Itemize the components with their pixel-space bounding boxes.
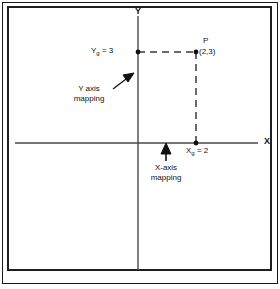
coordinate-plot	[0, 0, 280, 289]
x-mapping-value-rest: = 2	[195, 146, 209, 155]
x-axis-mapping-arrow	[161, 143, 171, 161]
y-axis-label: Y	[135, 6, 141, 16]
y-axis-mapping-note: Y axis mapping	[56, 84, 122, 105]
point-p-name-label: P	[203, 36, 208, 45]
y-axis-marker-dot	[136, 50, 141, 55]
x-axis-marker-dot	[194, 141, 199, 146]
x-axis-mapping-note-line2: mapping	[133, 173, 199, 183]
y-axis-mapping-note-line1: Y axis	[56, 84, 122, 94]
point-p-marker-dot	[194, 50, 199, 55]
y-axis-mapping-note-line2: mapping	[56, 94, 122, 104]
x-axis-mapping-note-line1: X-axis	[133, 163, 199, 173]
coordinate-mapping-figure: Y X Yg = 3 Xg = 2 P (2,3) Y axis mapping…	[0, 0, 280, 289]
point-p-coordinates-label: (2,3)	[199, 47, 215, 56]
x-axis-label: X	[264, 136, 270, 146]
x-axis-mapping-note: X-axis mapping	[133, 163, 199, 184]
y-mapping-value-label: Yg = 3	[91, 46, 113, 56]
y-mapping-value-rest: = 3	[100, 46, 114, 55]
x-mapping-value-label: Xg = 2	[186, 146, 208, 156]
